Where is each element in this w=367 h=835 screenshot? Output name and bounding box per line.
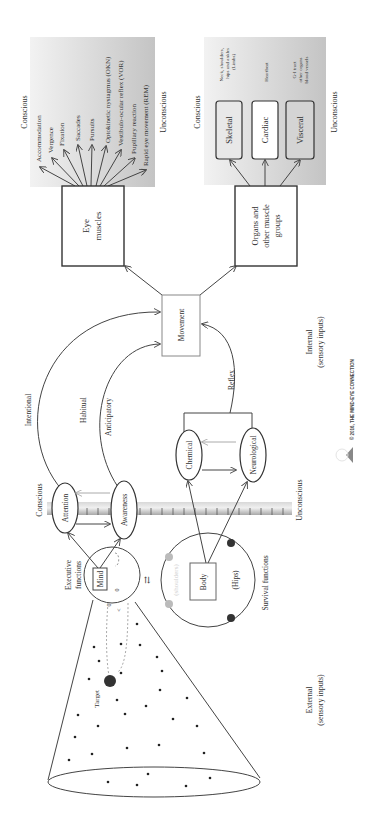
eye-function-label: Pupillary reaction [130, 104, 138, 154]
internal-label: Internal [305, 329, 314, 355]
mind-glyph: < [116, 608, 122, 612]
scale-unconscious-label: Unconscious [295, 479, 304, 520]
eye-function-label: Fixation [58, 122, 66, 146]
external-label: External [305, 686, 314, 714]
cone-base [48, 767, 260, 797]
awareness-label: Awareness [120, 494, 129, 526]
eye-function-label: Rapid eye movement (REM) [142, 84, 150, 166]
eye-muscles-label-1: Eye [81, 219, 91, 233]
visceral-label: Visceral [295, 115, 305, 143]
shoulders-label: (shoulders) [172, 564, 180, 596]
eye-conscious-label: Conscious [20, 95, 29, 128]
intentional-arc [38, 312, 160, 490]
hip-point [227, 614, 235, 622]
target-dot [104, 675, 116, 687]
visceral-note: blood vessels [304, 57, 309, 84]
eye-function-label: Pursuits [88, 118, 96, 141]
intentional-label: Intentional [24, 394, 33, 427]
organs-label-2: other muscle [261, 204, 271, 248]
attention-label: Attention [61, 494, 70, 523]
skeletal-note: hips and ankles [225, 48, 230, 79]
habitual-label: Habitual [79, 397, 88, 423]
organs-label-1: Organs and [250, 206, 260, 246]
target-label: Target [93, 690, 101, 708]
external-sublabel: (sensory inputs) [316, 674, 325, 726]
survival-functions-label: Survival functions [261, 555, 270, 610]
eye-function-label: Accommodation [35, 115, 43, 162]
movement-node: Movement [125, 266, 236, 356]
logo-triangle-icon [346, 447, 353, 463]
neurological-label: Neurological [249, 435, 258, 474]
stimulus-dots [68, 623, 212, 788]
visceral-note: G-I tract [292, 61, 297, 79]
eye-function-label: Optokinetic nystagmus (OKN) [104, 56, 112, 143]
eye-function-label: Vestibulo-ocular reflex (VOR) [117, 60, 125, 146]
skeletal-label: Skeletal [224, 116, 234, 144]
hip-point [227, 539, 235, 547]
mind-glyph: 0 [114, 589, 120, 592]
organs-panel: Conscious Unconscious Skeletal Cardiac V… [193, 37, 339, 266]
eye-unconscious-label: Unconscious [159, 91, 168, 132]
mind-glyph: 0 [106, 604, 112, 607]
eye-muscles-panel: Conscious Unconscious Accommodation Verg… [20, 37, 168, 266]
hips-label: (Hips) [231, 570, 240, 590]
copyright-mark: © 2016, THE MIND-EYE CONNECTION [336, 359, 355, 463]
signal-nodes: Chemical Neurological [176, 413, 266, 482]
movement-label: Movement [177, 308, 186, 341]
pathway-arcs: Intentional Habitual Anticipatory Reflex [24, 312, 236, 490]
cardiac-label: Cardiac [260, 117, 270, 144]
executive-label-1: Executive [64, 559, 73, 590]
mind-eye-diagram: Conscious Unconscious Accommodation Verg… [0, 0, 367, 835]
organs-label-3: groups [272, 214, 282, 237]
organs-conscious-label: Conscious [193, 95, 202, 128]
cardiac-note: Heartbeat [264, 62, 269, 82]
awareness-scale: Conscious Unconscious Attention Awarenes… [35, 479, 304, 539]
chemical-label: Chemical [185, 441, 194, 470]
eye-function-label: Vergence [47, 127, 55, 153]
eye-muscles-label-2: muscles [93, 211, 103, 240]
mind-body-exchange-icon: ⇄ [142, 576, 152, 584]
reflex-arc [202, 324, 235, 413]
eye-function-label: Saccades [74, 115, 82, 141]
shoulder-point [165, 553, 173, 561]
scale-conscious-label: Conscious [35, 483, 44, 516]
mind-circle [84, 547, 140, 603]
mind-node: Mind 0 0 < Executive functions ⇄ [64, 533, 152, 612]
reflex-label: Reflex [227, 370, 236, 390]
copyright-text: © 2016, THE MIND-EYE CONNECTION [349, 359, 355, 440]
mind-label: Mind [96, 571, 105, 588]
organs-unconscious-label: Unconscious [330, 91, 339, 132]
visceral-note: other organs [298, 58, 303, 83]
scale-bar [47, 502, 292, 515]
shoulder-point [165, 600, 173, 608]
internal-sublabel: (sensory inputs) [316, 316, 325, 368]
body-label: Body [199, 574, 208, 591]
visual-field-cone: Target [48, 600, 260, 797]
skeletal-note: (Limbs) [231, 54, 236, 70]
executive-label-2: functions [74, 561, 83, 589]
anticipatory-label: Anticipatory [104, 398, 113, 436]
